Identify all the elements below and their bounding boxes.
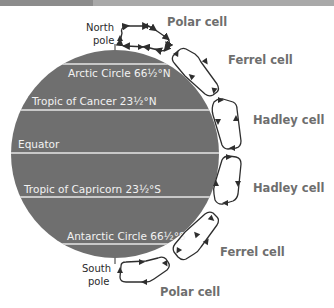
arrow-icon	[226, 154, 232, 160]
south-pole-label-line1: South	[82, 263, 111, 274]
earth-globe: Arctic Circle 66½°N Tropic of Cancer 23½…	[0, 50, 240, 258]
arrow-icon	[222, 200, 228, 206]
south-pole-label-line2: pole	[88, 276, 109, 287]
arrow-icon	[142, 23, 148, 29]
north-hadley-cell-label: Hadley cell	[253, 113, 324, 127]
south-ferrel-cell-label: Ferrel cell	[220, 245, 285, 259]
arrow-icon	[229, 145, 235, 151]
north-pole-label-line2: pole	[93, 35, 114, 46]
arrow-icon	[138, 44, 144, 50]
arctic-circle-label: Arctic Circle 66½°N	[68, 67, 171, 79]
arrow-icon	[117, 267, 123, 273]
north-polar-cell-loop	[120, 26, 169, 51]
circulation-diagram: Arctic Circle 66½°N Tropic of Cancer 23½…	[0, 0, 334, 308]
arrow-icon	[117, 35, 123, 41]
arrow-icon	[139, 259, 145, 265]
south-polar-cell-label: Polar cell	[160, 285, 220, 299]
south-hadley-cell-label: Hadley cell	[253, 181, 324, 195]
equator-label: Equator	[18, 138, 60, 150]
tropic-of-cancer-label: Tropic of Cancer 23½°N	[31, 95, 156, 107]
tropic-of-capricorn-label: Tropic of Capricorn 23½°S	[23, 183, 161, 195]
arrow-icon	[208, 215, 216, 223]
arrow-icon	[218, 97, 224, 103]
south-polar-cell-loop	[120, 257, 169, 282]
arrow-icon	[235, 181, 241, 187]
antarctic-circle-label: Antarctic Circle 66½°S	[67, 230, 186, 242]
north-polar-cell-label: Polar cell	[167, 15, 227, 29]
arrow-icon	[141, 279, 147, 285]
north-ferrel-cell-label: Ferrel cell	[228, 53, 293, 67]
arrow-icon	[192, 230, 200, 238]
arrow-icon	[211, 88, 218, 95]
north-pole-label-line1: North	[86, 22, 114, 33]
